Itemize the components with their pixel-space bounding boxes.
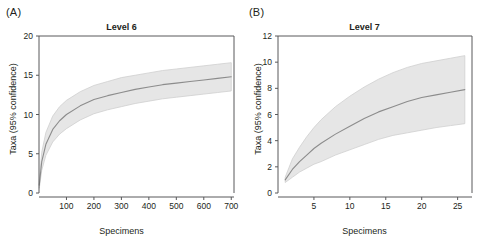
panel-b-x-axis-label: Specimens xyxy=(243,226,486,236)
svg-text:20: 20 xyxy=(417,201,427,211)
svg-text:100: 100 xyxy=(59,201,73,211)
svg-text:400: 400 xyxy=(142,201,156,211)
panel-b: (B) Level 7 024681012510152025 Taxa (95%… xyxy=(243,0,486,242)
panel-b-plot: 024681012510152025 Taxa (95% confidence)… xyxy=(243,0,486,242)
panel-a-x-axis-label: Specimens xyxy=(0,226,243,236)
svg-text:5: 5 xyxy=(312,201,317,211)
svg-text:300: 300 xyxy=(114,201,128,211)
svg-text:25: 25 xyxy=(453,201,463,211)
svg-text:0: 0 xyxy=(28,188,33,198)
svg-text:5: 5 xyxy=(28,149,33,159)
svg-text:10: 10 xyxy=(24,110,34,120)
svg-text:15: 15 xyxy=(381,201,391,211)
svg-text:2: 2 xyxy=(267,162,272,172)
svg-text:8: 8 xyxy=(267,83,272,93)
svg-text:6: 6 xyxy=(267,110,272,120)
svg-text:200: 200 xyxy=(87,201,101,211)
panel-a-y-axis-label: Taxa (95% confidence) xyxy=(8,44,18,174)
svg-text:0: 0 xyxy=(267,188,272,198)
panel-a-plot: 05101520100200300400500600700 Taxa (95% … xyxy=(0,0,243,242)
svg-text:600: 600 xyxy=(197,201,211,211)
rarefaction-figure: (A) Level 6 0510152010020030040050060070… xyxy=(0,0,486,242)
panel-b-chart-svg: 024681012510152025 xyxy=(243,0,486,242)
svg-text:10: 10 xyxy=(263,57,273,67)
svg-text:20: 20 xyxy=(24,31,34,41)
panel-a-chart-svg: 05101520100200300400500600700 xyxy=(0,0,243,242)
svg-text:700: 700 xyxy=(224,201,238,211)
svg-text:4: 4 xyxy=(267,136,272,146)
svg-text:12: 12 xyxy=(263,31,273,41)
panel-b-y-axis-label: Taxa (95% confidence) xyxy=(253,44,263,174)
svg-text:500: 500 xyxy=(169,201,183,211)
panel-a: (A) Level 6 0510152010020030040050060070… xyxy=(0,0,243,242)
svg-text:10: 10 xyxy=(345,201,355,211)
svg-text:15: 15 xyxy=(24,70,34,80)
